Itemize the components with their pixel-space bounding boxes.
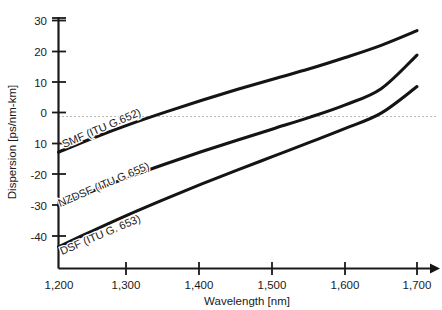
x-tick-label-1300: 1,300 [112, 279, 141, 291]
series-label-nzdsf: NZDSF (ITU G.655) [56, 160, 151, 209]
series-label-dsf: DSF (ITU G. 653) [58, 212, 142, 257]
series-label-smf: SMF (ITU G.652) [60, 106, 142, 150]
x-tick-label-1500: 1,500 [258, 279, 287, 291]
x-tick-label-1700: 1,700 [403, 279, 432, 291]
x-tick-label-1400: 1,400 [185, 279, 214, 291]
y-tick-label-0: 0 [41, 107, 47, 119]
y-tick-label-minus-40: -40 [30, 231, 47, 243]
x-axis-arrowhead [430, 264, 440, 274]
y-tick-label-minus-20: -20 [30, 169, 47, 181]
y-tick-label-10: 10 [34, 77, 47, 89]
y-tick-label-30: 30 [34, 15, 47, 27]
y-tick-labels: 30 20 10 0 10 -20 -30 -40 [30, 15, 47, 243]
y-tick-label-minus-10: 10 [34, 138, 47, 150]
y-axis-title: Dispersion [ps/nm-km] [6, 85, 18, 199]
dispersion-chart: 30 20 10 0 10 -20 -30 -40 1,200 1,300 1,… [0, 0, 442, 310]
x-tick-label-1600: 1,600 [331, 279, 360, 291]
y-tick-label-minus-30: -30 [30, 200, 47, 212]
y-tick-label-20: 20 [34, 46, 47, 58]
x-axis-title: Wavelength [nm] [204, 295, 290, 307]
x-tick-labels: 1,200 1,300 1,400 1,500 1,600 1,700 [45, 279, 432, 291]
series-labels: SMF (ITU G.652) NZDSF (ITU G.655) DSF (I… [56, 106, 151, 257]
chart-canvas: 30 20 10 0 10 -20 -30 -40 1,200 1,300 1,… [0, 0, 442, 310]
series-curve-smf [59, 31, 418, 153]
x-tick-label-1200: 1,200 [45, 279, 74, 291]
